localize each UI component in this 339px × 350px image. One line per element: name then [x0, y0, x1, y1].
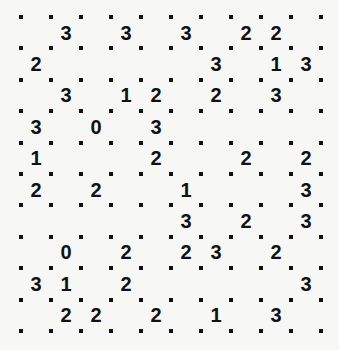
puzzle-cell[interactable]: 1	[171, 174, 201, 205]
puzzle-cell[interactable]	[81, 80, 111, 111]
puzzle-cell[interactable]: 3	[141, 111, 171, 142]
puzzle-cell[interactable]	[291, 17, 321, 48]
puzzle-cell[interactable]	[171, 300, 201, 331]
puzzle-cell[interactable]: 2	[261, 17, 291, 48]
puzzle-cell[interactable]	[21, 205, 51, 236]
puzzle-cell[interactable]: 3	[291, 174, 321, 205]
puzzle-cell[interactable]	[231, 268, 261, 299]
puzzle-cell[interactable]: 2	[51, 300, 81, 331]
puzzle-cell[interactable]: 3	[291, 205, 321, 236]
puzzle-cell[interactable]: 2	[81, 174, 111, 205]
puzzle-cell[interactable]: 3	[291, 48, 321, 79]
puzzle-cell[interactable]	[81, 268, 111, 299]
puzzle-cell[interactable]	[81, 17, 111, 48]
puzzle-cell[interactable]: 3	[201, 48, 231, 79]
puzzle-cell[interactable]	[21, 300, 51, 331]
puzzle-cell[interactable]: 2	[171, 237, 201, 268]
puzzle-cell[interactable]	[141, 174, 171, 205]
puzzle-cell[interactable]	[261, 205, 291, 236]
puzzle-cell[interactable]	[141, 268, 171, 299]
puzzle-cell[interactable]	[111, 174, 141, 205]
puzzle-cell[interactable]	[111, 143, 141, 174]
puzzle-cell[interactable]	[171, 48, 201, 79]
puzzle-cell[interactable]	[141, 17, 171, 48]
puzzle-cell[interactable]	[201, 111, 231, 142]
puzzle-cell[interactable]	[231, 111, 261, 142]
puzzle-cell[interactable]: 3	[171, 205, 201, 236]
puzzle-cell[interactable]: 2	[141, 300, 171, 331]
puzzle-cell[interactable]	[81, 205, 111, 236]
puzzle-cell[interactable]	[261, 111, 291, 142]
puzzle-cell[interactable]	[261, 143, 291, 174]
puzzle-cell[interactable]: 3	[291, 268, 321, 299]
puzzle-cell[interactable]	[111, 48, 141, 79]
puzzle-cell[interactable]: 3	[261, 300, 291, 331]
puzzle-cell[interactable]: 2	[141, 80, 171, 111]
puzzle-cell[interactable]	[261, 174, 291, 205]
puzzle-cell[interactable]: 0	[81, 111, 111, 142]
puzzle-cell[interactable]	[201, 174, 231, 205]
puzzle-cell[interactable]: 1	[21, 143, 51, 174]
puzzle-cell[interactable]	[231, 80, 261, 111]
puzzle-cell[interactable]: 2	[231, 17, 261, 48]
puzzle-cell[interactable]: 2	[111, 237, 141, 268]
puzzle-cell[interactable]	[111, 300, 141, 331]
puzzle-cell[interactable]: 1	[261, 48, 291, 79]
puzzle-cell[interactable]	[231, 174, 261, 205]
puzzle-cell[interactable]	[51, 205, 81, 236]
puzzle-cell[interactable]: 3	[201, 237, 231, 268]
puzzle-cell[interactable]	[141, 205, 171, 236]
puzzle-cell[interactable]	[231, 48, 261, 79]
puzzle-cell[interactable]	[141, 237, 171, 268]
puzzle-cell[interactable]	[81, 48, 111, 79]
puzzle-cell[interactable]	[51, 174, 81, 205]
puzzle-cell[interactable]: 2	[81, 300, 111, 331]
puzzle-cell[interactable]: 2	[201, 80, 231, 111]
puzzle-cell[interactable]: 2	[21, 174, 51, 205]
puzzle-cell[interactable]: 2	[231, 143, 261, 174]
puzzle-cell[interactable]	[81, 237, 111, 268]
puzzle-cell[interactable]: 2	[111, 268, 141, 299]
puzzle-cell[interactable]	[21, 17, 51, 48]
puzzle-cell[interactable]: 3	[21, 268, 51, 299]
puzzle-cell[interactable]	[111, 111, 141, 142]
puzzle-cell[interactable]	[291, 111, 321, 142]
puzzle-cell[interactable]	[201, 143, 231, 174]
puzzle-cell[interactable]: 1	[201, 300, 231, 331]
puzzle-cell[interactable]: 3	[51, 80, 81, 111]
puzzle-cell[interactable]: 2	[261, 237, 291, 268]
puzzle-cell[interactable]	[21, 80, 51, 111]
puzzle-cell[interactable]	[21, 237, 51, 268]
puzzle-cell[interactable]	[111, 205, 141, 236]
puzzle-cell[interactable]	[231, 300, 261, 331]
slitherlink-board[interactable]: 3332223133122330312222213323022323123222…	[0, 0, 339, 350]
puzzle-cell[interactable]: 2	[141, 143, 171, 174]
puzzle-cell[interactable]	[171, 80, 201, 111]
puzzle-cell[interactable]: 3	[261, 80, 291, 111]
puzzle-cell[interactable]	[261, 268, 291, 299]
puzzle-cell[interactable]: 3	[21, 111, 51, 142]
puzzle-cell[interactable]	[81, 143, 111, 174]
puzzle-cell[interactable]: 2	[231, 205, 261, 236]
puzzle-cell[interactable]	[201, 268, 231, 299]
puzzle-cell[interactable]	[171, 143, 201, 174]
puzzle-cell[interactable]	[201, 17, 231, 48]
puzzle-cell[interactable]	[231, 237, 261, 268]
puzzle-cell[interactable]: 1	[51, 268, 81, 299]
puzzle-cell[interactable]	[291, 80, 321, 111]
puzzle-cell[interactable]	[171, 111, 201, 142]
puzzle-cell[interactable]	[141, 48, 171, 79]
puzzle-cell[interactable]: 3	[171, 17, 201, 48]
puzzle-cell[interactable]: 2	[291, 143, 321, 174]
puzzle-cell[interactable]: 3	[51, 17, 81, 48]
puzzle-cell[interactable]	[51, 143, 81, 174]
puzzle-cell[interactable]	[291, 300, 321, 331]
puzzle-cell[interactable]	[201, 205, 231, 236]
puzzle-cell[interactable]: 2	[21, 48, 51, 79]
puzzle-cell[interactable]	[51, 48, 81, 79]
puzzle-cell[interactable]: 1	[111, 80, 141, 111]
puzzle-cell[interactable]	[51, 111, 81, 142]
puzzle-cell[interactable]	[291, 237, 321, 268]
puzzle-cell[interactable]: 0	[51, 237, 81, 268]
puzzle-cell[interactable]: 3	[111, 17, 141, 48]
